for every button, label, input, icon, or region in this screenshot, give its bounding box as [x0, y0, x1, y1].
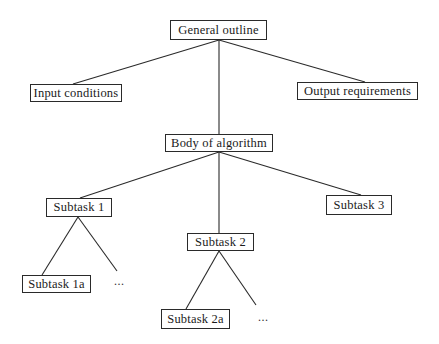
edge-sub2-to-sub2a — [186, 251, 219, 309]
node-input: Input conditions — [30, 84, 122, 102]
node-body: Body of algorithm — [165, 134, 273, 152]
edge-general-to-input — [73, 40, 219, 84]
edge-sub2-to-sub2-more — [219, 251, 256, 305]
node-output: Output requirements — [297, 82, 418, 100]
node-sub1: Subtask 1 — [46, 198, 112, 217]
edge-sub1-to-sub1a — [42, 217, 78, 275]
node-label: General outline — [178, 23, 258, 38]
node-sub2a: Subtask 2a — [161, 309, 230, 329]
node-sub3: Subtask 3 — [326, 195, 392, 215]
node-label: Input conditions — [34, 86, 119, 101]
node-general: General outline — [170, 20, 267, 40]
node-sub1a: Subtask 1a — [22, 275, 91, 293]
node-label: Subtask 1 — [54, 200, 105, 215]
algorithm-structure-diagram: General outlineInput conditionsOutput re… — [0, 0, 439, 344]
edge-sub1-to-sub1-more — [78, 217, 117, 271]
node-label: Subtask 1a — [28, 277, 85, 292]
node-sub2: Subtask 2 — [187, 233, 254, 251]
node-label: Subtask 2 — [195, 235, 246, 250]
node-label: Output requirements — [304, 84, 411, 99]
node-label: Subtask 2a — [167, 312, 224, 327]
node-label: Subtask 3 — [334, 198, 385, 213]
ellipsis-sub2-more: ... — [258, 310, 269, 325]
edge-body-to-sub1 — [80, 152, 219, 198]
ellipsis-sub1-more: ... — [114, 274, 125, 289]
edge-general-to-output — [219, 40, 365, 82]
edge-body-to-sub3 — [219, 152, 361, 195]
node-label: Body of algorithm — [171, 136, 267, 151]
